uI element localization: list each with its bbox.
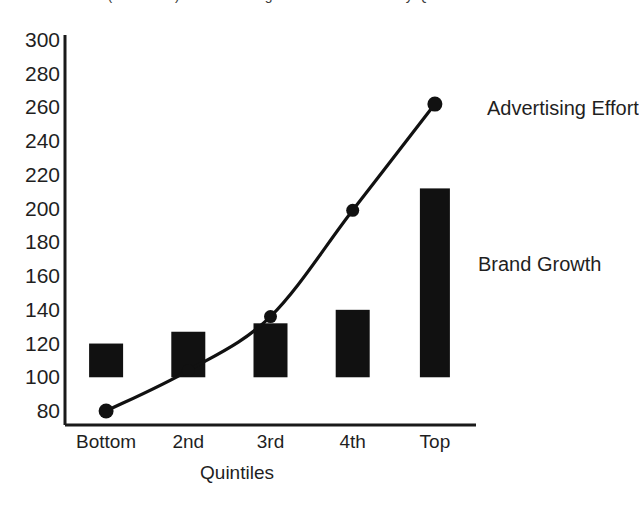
marker-4th [346,204,359,217]
bar-top [420,188,450,377]
x-tick-top: Top [420,432,451,452]
bar-3rd [254,323,288,377]
annotation-brand-growth: Brand Growth [478,253,601,275]
x-axis-title: Quintiles [200,462,274,484]
x-tick-4th: 4th [339,432,365,452]
bar-series [89,188,450,377]
marker-2nd [182,364,195,377]
marker-bottom [99,404,114,419]
marker-3rd [264,310,277,323]
x-tick-bottom: Bottom [76,432,136,452]
marker-top [427,97,442,112]
x-tick-3rd: 3rd [257,432,284,452]
annotation-advertising-effort: Advertising Effort [487,97,639,119]
x-tick-2nd: 2nd [172,432,204,452]
bar-4th [336,310,370,377]
bar-bottom [89,344,123,378]
